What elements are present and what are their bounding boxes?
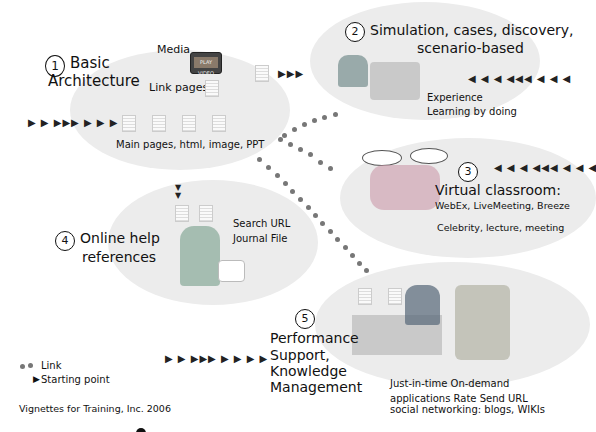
arrows-into-performance: ▶ ▶ ▶▶▶ ▶ ▶ ▶ ▶	[165, 353, 268, 364]
arrow-down-2: ▼	[175, 191, 182, 200]
basic-architecture-title-1: Basic	[70, 54, 110, 72]
speech-bubble-icon	[362, 150, 402, 166]
page-icon	[255, 65, 269, 82]
page-icon	[388, 288, 402, 305]
virtual-classroom-people-illustration	[370, 165, 440, 210]
businessman-at-desk-illustration	[405, 285, 440, 325]
partial-circle-mark	[136, 428, 146, 432]
legend-start-arrow-icon: ▶	[33, 374, 40, 384]
performance-desc-3: social networking: blogs, WIKIs	[390, 404, 545, 415]
online-help-title-1: Online help	[80, 230, 160, 246]
media-label: Media	[157, 43, 190, 56]
tv-label: PLAY VIDEO	[194, 57, 218, 68]
legend-link-dot	[20, 364, 25, 369]
basic-architecture-title-2: Architecture	[48, 72, 140, 90]
tv-icon: PLAY VIDEO	[190, 52, 222, 74]
performance-title-4: Management	[270, 379, 362, 395]
detective-magnifier-illustration	[180, 226, 220, 286]
performance-title-3: Knowledge	[270, 363, 347, 379]
legend-link-dot	[28, 363, 33, 368]
page-icon	[152, 115, 166, 132]
page-icon	[205, 80, 219, 97]
online-help-title-2: references	[82, 249, 156, 265]
virtual-classroom-title: Virtual classroom:	[435, 182, 561, 198]
virtual-classroom-tools: WebEx, LiveMeeting, Breeze	[435, 200, 570, 211]
page-icon	[358, 288, 372, 305]
virtual-classroom-types: Celebrity, lecture, meeting	[437, 222, 564, 233]
journal-file-label: Journal File	[233, 233, 288, 244]
main-pages-label: Main pages, html, image, PPT	[116, 139, 264, 150]
arrows-to-simulation: ▶▶▶	[278, 68, 304, 79]
page-icon	[199, 205, 213, 222]
diagram-canvas: 1 Basic Architecture Media PLAY VIDEO Li…	[0, 0, 596, 432]
search-url-label: Search URL	[233, 218, 290, 229]
arrows-into-virtual-classroom: ◀ ◀ ◀ ◀◀◀ ◀ ◀ ◀	[494, 162, 596, 173]
page-icon	[182, 115, 196, 132]
step-number-5: 5	[295, 309, 315, 329]
simulation-title-1: Simulation, cases, discovery,	[370, 22, 574, 38]
workers-carrying-boxes-illustration	[455, 285, 510, 360]
calculator-money-illustration	[370, 62, 420, 100]
learning-by-doing-label: Learning by doing	[427, 106, 517, 117]
performance-desc-1: Just-in-time On-demand	[390, 378, 509, 389]
link-pages-label: Link pages	[149, 81, 208, 94]
step-number-2: 2	[345, 22, 365, 42]
businessman-phone-illustration	[338, 55, 368, 87]
performance-desc-2: applications Rate Send URL	[390, 393, 528, 404]
page-icon	[122, 115, 136, 132]
page-icon	[212, 115, 226, 132]
step-number-3: 3	[458, 162, 478, 182]
experience-label: Experience	[427, 92, 483, 103]
simulation-title-2: scenario-based	[417, 40, 524, 56]
step-number-4: 4	[55, 231, 75, 251]
arrows-into-simulation: ◀ ◀ ◀ ◀◀◀ ◀ ◀ ◀	[468, 73, 571, 84]
performance-title-2: Support,	[270, 347, 330, 363]
search-box	[218, 260, 245, 282]
legend-start-label: Starting point	[41, 374, 110, 385]
legend-link-label: Link	[41, 360, 61, 371]
page-icon	[175, 205, 189, 222]
speech-bubble-icon	[410, 148, 448, 164]
start-arrows-row: ▶ ▶ ▶▶▶ ▶ ▶ ▶ ▶	[28, 117, 131, 128]
performance-title-1: Performance	[270, 330, 359, 346]
footer-credit: Vignettes for Training, Inc. 2006	[19, 403, 171, 414]
